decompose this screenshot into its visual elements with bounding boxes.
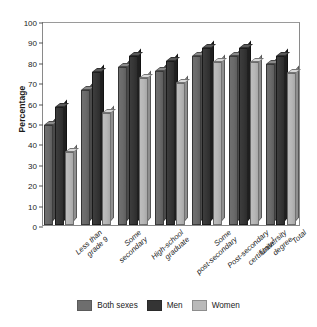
y-axis-tick-mark bbox=[39, 206, 43, 207]
bar-face bbox=[139, 78, 148, 225]
bar-face bbox=[155, 71, 164, 225]
plot-area: 0102030405060708090100 bbox=[42, 22, 300, 226]
legend-item[interactable]: Women bbox=[192, 300, 240, 311]
bar-face bbox=[250, 62, 259, 225]
bar-women bbox=[65, 152, 74, 225]
bar-face bbox=[176, 83, 185, 225]
y-axis-tick-mark bbox=[39, 145, 43, 146]
bar-group bbox=[118, 23, 148, 225]
bar-both-sexes bbox=[266, 64, 275, 225]
chart-legend: Both sexesMenWomen bbox=[0, 300, 317, 311]
bar-face bbox=[239, 48, 248, 225]
bar-side bbox=[296, 65, 299, 221]
bar-women bbox=[287, 73, 296, 225]
legend-label: Both sexes bbox=[97, 301, 138, 310]
bar-face bbox=[102, 113, 111, 225]
bar-face bbox=[65, 152, 74, 225]
y-axis-tick-mark bbox=[39, 43, 43, 44]
bar-face bbox=[192, 56, 201, 225]
bar-men bbox=[239, 48, 248, 225]
bar-both-sexes bbox=[192, 56, 201, 225]
legend-item[interactable]: Men bbox=[147, 300, 183, 311]
x-axis-label: High-schoolgraduate bbox=[149, 228, 191, 269]
bar-face bbox=[229, 56, 238, 225]
bar-face bbox=[287, 73, 296, 225]
bar-group bbox=[229, 23, 259, 225]
bar-face bbox=[213, 62, 222, 225]
bar-face bbox=[202, 48, 211, 225]
bar-side bbox=[74, 144, 77, 221]
bar-both-sexes bbox=[81, 90, 90, 225]
bar-chart: Percentage 0102030405060708090100 Less t… bbox=[0, 0, 317, 327]
bar-face bbox=[81, 90, 90, 225]
bar-men bbox=[92, 72, 101, 225]
bar-group bbox=[44, 23, 74, 225]
y-axis-tick-mark bbox=[39, 104, 43, 105]
bar-women bbox=[176, 83, 185, 225]
bar-both-sexes bbox=[155, 71, 164, 225]
bar-face bbox=[266, 64, 275, 225]
women-swatch bbox=[192, 300, 207, 311]
both-sexes-swatch bbox=[77, 300, 92, 311]
bar-men bbox=[55, 107, 64, 225]
bar-face bbox=[129, 56, 138, 225]
bar-women bbox=[139, 78, 148, 225]
x-axis-label: Less thangrade 9 bbox=[73, 228, 110, 264]
bar-group bbox=[81, 23, 111, 225]
legend-item[interactable]: Both sexes bbox=[77, 300, 138, 311]
bar-men bbox=[129, 56, 138, 225]
bar-men bbox=[276, 56, 285, 225]
y-axis-tick-mark bbox=[39, 186, 43, 187]
men-swatch bbox=[147, 300, 162, 311]
legend-label: Women bbox=[212, 301, 240, 310]
bar-side bbox=[259, 54, 262, 221]
bar-side bbox=[148, 70, 151, 221]
bar-face bbox=[44, 125, 53, 225]
bar-side bbox=[185, 75, 188, 221]
bar-men bbox=[166, 61, 175, 225]
y-axis-tick-mark bbox=[39, 63, 43, 64]
bar-men bbox=[202, 48, 211, 225]
y-axis-tick-mark bbox=[39, 84, 43, 85]
bar-women bbox=[250, 62, 259, 225]
legend-label: Men bbox=[167, 301, 183, 310]
plot-inner: 0102030405060708090100 bbox=[43, 23, 299, 225]
x-axis-label: Somesecondary bbox=[111, 228, 149, 265]
bar-group bbox=[155, 23, 185, 225]
bar-face bbox=[166, 61, 175, 225]
y-axis-tick-mark bbox=[39, 165, 43, 166]
bar-both-sexes bbox=[229, 56, 238, 225]
bar-face bbox=[92, 72, 101, 225]
bar-face bbox=[276, 56, 285, 225]
bar-face bbox=[55, 107, 64, 225]
bar-face bbox=[118, 67, 127, 225]
x-axis-labels: Less thangrade 9SomesecondaryHigh-school… bbox=[42, 228, 300, 286]
bar-group bbox=[192, 23, 222, 225]
y-axis-tick-mark bbox=[39, 23, 43, 24]
bar-side bbox=[111, 105, 114, 221]
bar-women bbox=[213, 62, 222, 225]
bar-both-sexes bbox=[118, 67, 127, 225]
bar-group bbox=[266, 23, 296, 225]
bar-both-sexes bbox=[44, 125, 53, 225]
bar-women bbox=[102, 113, 111, 225]
bar-side bbox=[222, 54, 225, 221]
